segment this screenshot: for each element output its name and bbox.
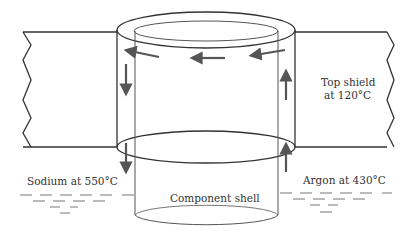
argon-label: Argon at 430°C [303, 174, 386, 186]
top-shield-label-line2: at 120°C [324, 89, 371, 101]
arrow-top-right [255, 50, 285, 55]
left-shield [23, 32, 117, 147]
argon-surface [280, 193, 392, 212]
sodium-surface [20, 195, 134, 213]
sodium-label: Sodium at 550°C [27, 175, 118, 187]
top-shield-label-line1: Top shield [321, 76, 375, 88]
arrow-top-left [130, 51, 159, 57]
component-shell-label: Component shell [170, 192, 260, 204]
outer-cylinder [117, 12, 295, 163]
